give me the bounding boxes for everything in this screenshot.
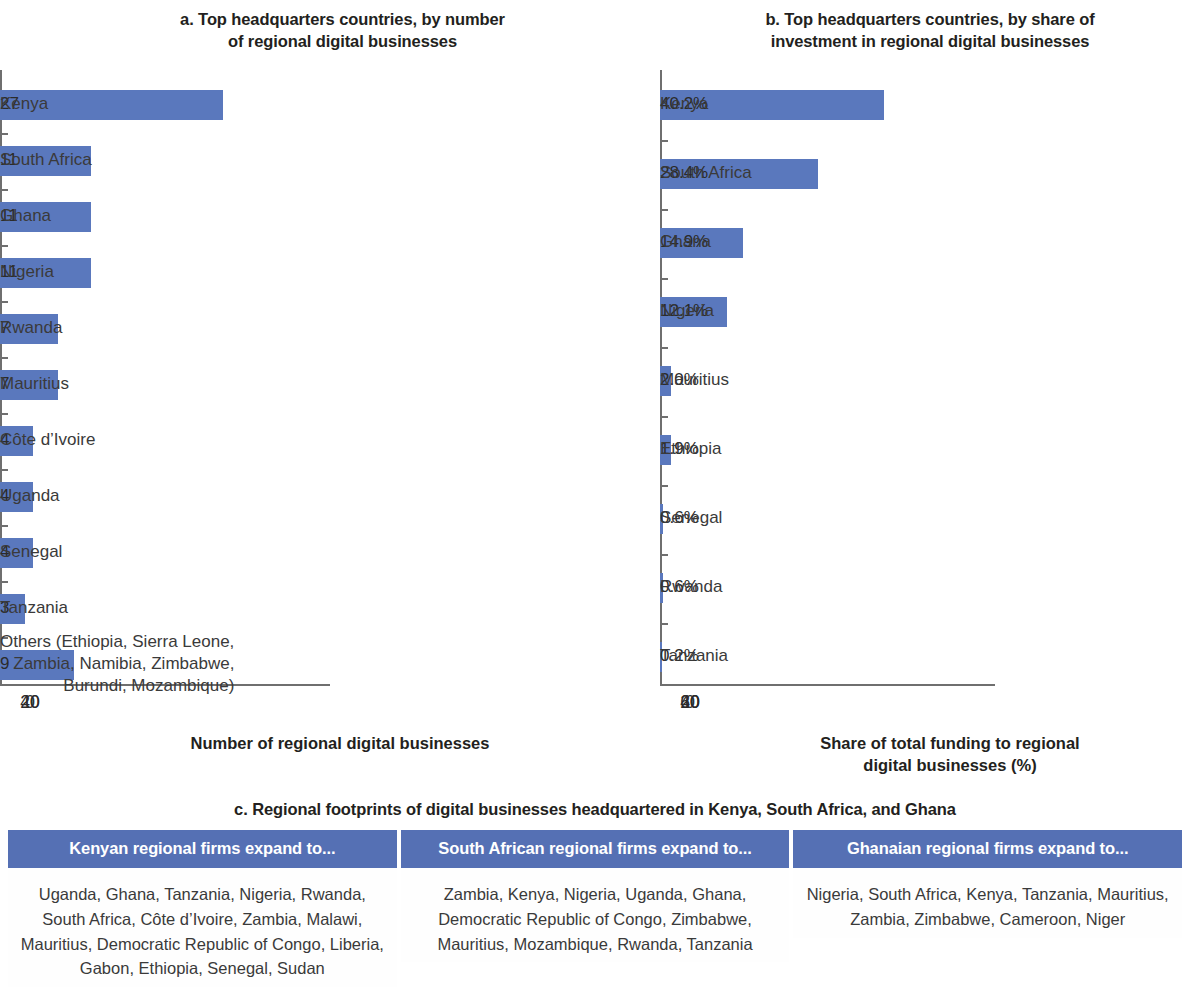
panel-a-title-line2: of regional digital businesses <box>228 32 457 50</box>
category-label: Mauritius <box>0 373 69 395</box>
category-label: Tanzania <box>0 597 68 619</box>
y-axis-tick <box>0 189 8 191</box>
y-axis-tick <box>0 469 8 471</box>
panel-c-title: c. Regional footprints of digital busine… <box>0 790 1190 819</box>
panel-a-axis-title-text: Number of regional digital businesses <box>191 734 490 752</box>
panel-a-plot: 0204027Kenya11South Africa11Ghana11Niger… <box>0 70 660 690</box>
y-axis-tick <box>0 413 8 415</box>
panel-a: a. Top headquarters countries, by number… <box>0 0 660 790</box>
panel-a-title-line1: a. Top headquarters countries, by number <box>180 10 505 28</box>
footprint-column-body: Zambia, Kenya, Nigeria, Uganda, Ghana, D… <box>401 868 790 962</box>
footprint-column: South African regional firms expand to..… <box>401 830 790 987</box>
category-label: South Africa <box>0 149 92 171</box>
category-label: Senegal <box>660 507 722 529</box>
category-label: Nigeria <box>0 261 54 283</box>
y-axis-tick <box>660 554 668 556</box>
y-axis-tick <box>0 133 8 135</box>
footprint-column-body: Nigeria, South Africa, Kenya, Tanzania, … <box>793 868 1182 938</box>
footprint-column-body: Uganda, Ghana, Tanzania, Nigeria, Rwanda… <box>8 868 397 987</box>
category-label: Ghana <box>0 205 51 227</box>
y-axis-tick <box>660 140 668 142</box>
footprint-column-header: Kenyan regional firms expand to... <box>8 830 397 868</box>
category-label: Uganda <box>0 485 60 507</box>
category-label: Rwanda <box>660 576 722 598</box>
panel-b-axis-title-line2: digital businesses (%) <box>863 756 1036 774</box>
y-axis-tick <box>660 623 668 625</box>
category-label: Kenya <box>0 93 48 115</box>
category-label: South Africa <box>660 162 752 184</box>
panel-b-plot: 020406040.2%Kenya28.4%South Africa14.9%G… <box>660 70 1190 690</box>
y-axis-tick <box>660 347 668 349</box>
y-axis-tick <box>0 581 8 583</box>
panel-b-axis-title-line1: Share of total funding to regional <box>820 734 1079 752</box>
panel-b-title-line1: b. Top headquarters countries, by share … <box>765 10 1094 28</box>
y-axis-tick <box>660 209 668 211</box>
footprint-column: Kenyan regional firms expand to...Uganda… <box>8 830 397 987</box>
category-label: Senegal <box>0 541 62 563</box>
category-label: Tanzania <box>660 645 728 667</box>
category-label: Rwanda <box>0 317 62 339</box>
category-label: Côte d’Ivoire <box>0 429 95 451</box>
y-axis-tick <box>0 525 8 527</box>
footprint-table: Kenyan regional firms expand to...Uganda… <box>8 830 1182 987</box>
category-label: Ethiopia <box>660 438 721 460</box>
y-axis-tick <box>0 301 8 303</box>
y-axis-tick <box>660 485 668 487</box>
panel-b: b. Top headquarters countries, by share … <box>660 0 1190 790</box>
charts-row: a. Top headquarters countries, by number… <box>0 0 1190 790</box>
panel-b-title: b. Top headquarters countries, by share … <box>660 0 1190 53</box>
footprint-column-header: South African regional firms expand to..… <box>401 830 790 868</box>
y-axis-tick <box>0 245 8 247</box>
y-axis-tick <box>0 357 8 359</box>
category-label: Nigeria <box>660 300 714 322</box>
category-label: Ghana <box>660 231 711 253</box>
x-axis-tick <box>660 675 662 684</box>
category-label: Mauritius <box>660 369 729 391</box>
x-axis-title: Share of total funding to regionaldigita… <box>750 732 1150 777</box>
x-axis-title: Number of regional digital businesses <box>140 732 540 754</box>
x-axis-tick-label: 60 <box>660 692 720 713</box>
footprint-column: Ghanaian regional firms expand to...Nige… <box>793 830 1182 987</box>
panel-c: c. Regional footprints of digital busine… <box>0 790 1190 998</box>
footprint-column-header: Ghanaian regional firms expand to... <box>793 830 1182 868</box>
panel-a-title: a. Top headquarters countries, by number… <box>0 0 660 53</box>
y-axis-tick <box>660 278 668 280</box>
category-label: Others (Ethiopia, Sierra Leone, Zambia, … <box>0 631 234 696</box>
panel-b-title-line2: investment in regional digital businesse… <box>771 32 1090 50</box>
category-label: Kenya <box>660 93 708 115</box>
y-axis-tick <box>660 416 668 418</box>
x-axis-line <box>660 684 995 686</box>
